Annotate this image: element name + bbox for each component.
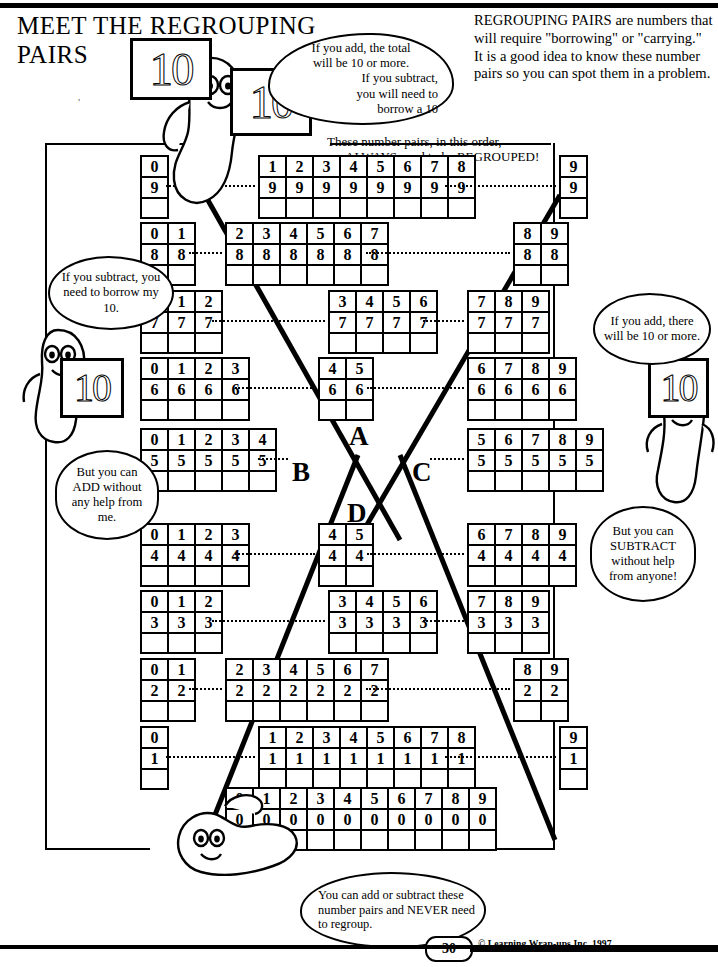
number-pair-cell[interactable]: 31 <box>312 726 341 790</box>
cell-answer-box[interactable] <box>470 831 495 849</box>
number-pair-cell[interactable]: 46 <box>318 357 347 421</box>
number-pair-cell[interactable]: 59 <box>366 155 395 219</box>
cell-answer-box[interactable] <box>347 567 372 585</box>
number-pair-cell[interactable]: 23 <box>194 590 223 654</box>
number-pair-cell[interactable]: 84 <box>521 523 550 587</box>
cell-answer-box[interactable] <box>223 567 248 585</box>
cell-answer-box[interactable] <box>496 401 521 419</box>
number-pair-cell[interactable]: 72 <box>360 658 389 722</box>
number-pair-cell[interactable]: 16 <box>167 357 196 421</box>
number-pair-cell[interactable]: 52 <box>306 658 335 722</box>
cell-answer-box[interactable] <box>335 702 360 720</box>
number-pair-cell[interactable]: 25 <box>194 428 223 492</box>
cell-answer-box[interactable] <box>341 199 366 217</box>
cell-answer-box[interactable] <box>142 567 167 585</box>
cell-answer-box[interactable] <box>469 472 494 490</box>
number-pair-cell[interactable]: 21 <box>285 726 314 790</box>
cell-answer-box[interactable] <box>169 266 194 284</box>
cell-answer-box[interactable] <box>362 266 387 284</box>
cell-answer-box[interactable] <box>287 770 312 788</box>
number-pair-cell[interactable]: 65 <box>494 428 523 492</box>
number-pair-cell[interactable]: 99 <box>559 155 588 219</box>
number-pair-cell[interactable]: 15 <box>167 428 196 492</box>
cell-answer-box[interactable] <box>281 266 306 284</box>
cell-answer-box[interactable] <box>469 401 494 419</box>
cell-answer-box[interactable] <box>314 770 339 788</box>
number-pair-cell[interactable]: 62 <box>333 658 362 722</box>
cell-answer-box[interactable] <box>443 831 468 849</box>
cell-answer-box[interactable] <box>169 702 194 720</box>
number-pair-cell[interactable]: 96 <box>548 357 577 421</box>
cell-answer-box[interactable] <box>550 472 575 490</box>
number-pair-cell[interactable]: 81 <box>447 726 476 790</box>
number-pair-cell[interactable]: 82 <box>513 658 542 722</box>
cell-answer-box[interactable] <box>550 401 575 419</box>
cell-answer-box[interactable] <box>250 472 275 490</box>
cell-answer-box[interactable] <box>384 334 409 352</box>
number-pair-cell[interactable]: 64 <box>467 523 496 587</box>
cell-answer-box[interactable] <box>357 634 382 652</box>
number-pair-cell[interactable]: 13 <box>167 590 196 654</box>
number-pair-cell[interactable]: 70 <box>414 787 443 851</box>
number-pair-cell[interactable]: 43 <box>355 590 384 654</box>
cell-answer-box[interactable] <box>389 831 414 849</box>
cell-answer-box[interactable] <box>523 634 548 652</box>
number-pair-cell[interactable]: 73 <box>467 590 496 654</box>
number-pair-cell[interactable]: 78 <box>360 222 389 286</box>
number-pair-cell[interactable]: 55 <box>467 428 496 492</box>
number-pair-cell[interactable]: 24 <box>194 523 223 587</box>
number-pair-cell[interactable]: 42 <box>279 658 308 722</box>
cell-answer-box[interactable] <box>169 334 194 352</box>
number-pair-cell[interactable]: 04 <box>140 523 169 587</box>
cell-answer-box[interactable] <box>523 401 548 419</box>
cell-answer-box[interactable] <box>196 472 221 490</box>
cell-answer-box[interactable] <box>561 770 586 788</box>
number-pair-cell[interactable]: 02 <box>140 658 169 722</box>
number-pair-cell[interactable]: 53 <box>382 590 411 654</box>
cell-answer-box[interactable] <box>411 634 436 652</box>
number-pair-cell[interactable]: 34 <box>221 523 250 587</box>
number-pair-cell[interactable]: 38 <box>252 222 281 286</box>
number-pair-cell[interactable]: 77 <box>467 290 496 354</box>
cell-answer-box[interactable] <box>496 567 521 585</box>
cell-answer-box[interactable] <box>227 266 252 284</box>
number-pair-cell[interactable]: 41 <box>339 726 368 790</box>
cell-answer-box[interactable] <box>320 401 345 419</box>
cell-answer-box[interactable] <box>142 702 167 720</box>
cell-answer-box[interactable] <box>496 472 521 490</box>
number-pair-cell[interactable]: 06 <box>140 357 169 421</box>
cell-answer-box[interactable] <box>422 199 447 217</box>
number-pair-cell[interactable]: 88 <box>513 222 542 286</box>
cell-answer-box[interactable] <box>260 770 285 788</box>
cell-answer-box[interactable] <box>542 702 567 720</box>
cell-answer-box[interactable] <box>550 567 575 585</box>
cell-answer-box[interactable] <box>449 199 474 217</box>
number-pair-cell[interactable]: 39 <box>312 155 341 219</box>
cell-answer-box[interactable] <box>395 199 420 217</box>
number-pair-cell[interactable]: 79 <box>420 155 449 219</box>
cell-answer-box[interactable] <box>254 702 279 720</box>
cell-answer-box[interactable] <box>196 334 221 352</box>
cell-answer-box[interactable] <box>196 567 221 585</box>
cell-answer-box[interactable] <box>515 702 540 720</box>
number-pair-cell[interactable]: 76 <box>494 357 523 421</box>
number-pair-cell[interactable]: 28 <box>225 222 254 286</box>
cell-answer-box[interactable] <box>196 634 221 652</box>
cell-answer-box[interactable] <box>142 770 167 788</box>
cell-answer-box[interactable] <box>223 472 248 490</box>
number-pair-cell[interactable]: 48 <box>279 222 308 286</box>
cell-answer-box[interactable] <box>330 334 355 352</box>
cell-answer-box[interactable] <box>335 266 360 284</box>
number-pair-cell[interactable]: 86 <box>521 357 550 421</box>
cell-answer-box[interactable] <box>142 634 167 652</box>
number-pair-cell[interactable]: 66 <box>467 357 496 421</box>
number-pair-cell[interactable]: 61 <box>393 726 422 790</box>
cell-answer-box[interactable] <box>335 831 360 849</box>
cell-answer-box[interactable] <box>577 472 602 490</box>
number-pair-cell[interactable]: 22 <box>225 658 254 722</box>
cell-answer-box[interactable] <box>254 266 279 284</box>
number-pair-cell[interactable]: 12 <box>167 658 196 722</box>
cell-answer-box[interactable] <box>169 401 194 419</box>
cell-answer-box[interactable] <box>496 634 521 652</box>
cell-answer-box[interactable] <box>422 770 447 788</box>
